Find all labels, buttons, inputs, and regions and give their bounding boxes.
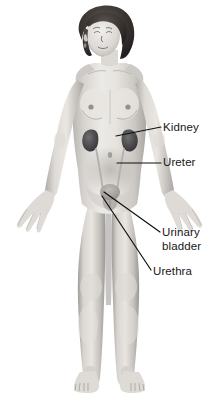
knee-right [115,273,137,301]
label-urinary-bladder-line-1: Urinary [162,226,200,238]
elbow-left [54,132,66,148]
nipple-right [125,104,130,109]
body-figure [17,6,202,393]
feet [74,371,145,393]
foot-left [74,371,99,393]
head [79,6,135,59]
breast-left [80,88,108,120]
label-ureter: Ureter [163,156,196,170]
hand-left [17,190,54,233]
calf-right [119,306,139,344]
anatomy-figure: Kidney Ureter Urinarybladder Urethra [0,0,220,405]
anatomy-illustration [0,0,220,405]
legs [78,205,139,387]
knee-left [80,273,102,301]
label-kidney: Kidney [163,121,199,135]
label-urinary-bladder-line-2: bladder [162,240,201,252]
label-urinary-bladder: Urinarybladder [162,226,201,253]
nipple-left [88,104,93,109]
breast-right [111,88,139,120]
label-urethra: Urethra [153,265,192,279]
calf-left [78,306,98,344]
foot-right [120,371,145,393]
inner-thigh-shadow [105,208,112,305]
